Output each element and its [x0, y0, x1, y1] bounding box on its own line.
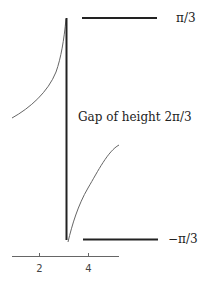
- x-tick-label-2: 2: [36, 263, 42, 274]
- upper-bound-label: π/3: [176, 11, 196, 25]
- right-branch-curve: [68, 145, 119, 242]
- function-plot: 2 4 π/3 −π/3 Gap of height 2π/3: [0, 0, 212, 282]
- x-tick-label-4: 4: [85, 263, 91, 274]
- lower-bound-label: −π/3: [168, 232, 198, 246]
- gap-label: Gap of height 2π/3: [78, 110, 192, 124]
- left-branch-curve: [12, 19, 66, 118]
